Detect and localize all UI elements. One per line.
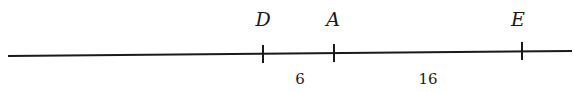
segment-label-ae: 16: [418, 70, 437, 88]
point-label-e: E: [510, 8, 525, 30]
number-line-diagram: D A E 6 16: [0, 0, 574, 92]
number-line: [8, 51, 572, 56]
segment-label-da: 6: [295, 70, 305, 88]
point-label-d: D: [254, 8, 270, 30]
point-label-a: A: [324, 8, 340, 30]
